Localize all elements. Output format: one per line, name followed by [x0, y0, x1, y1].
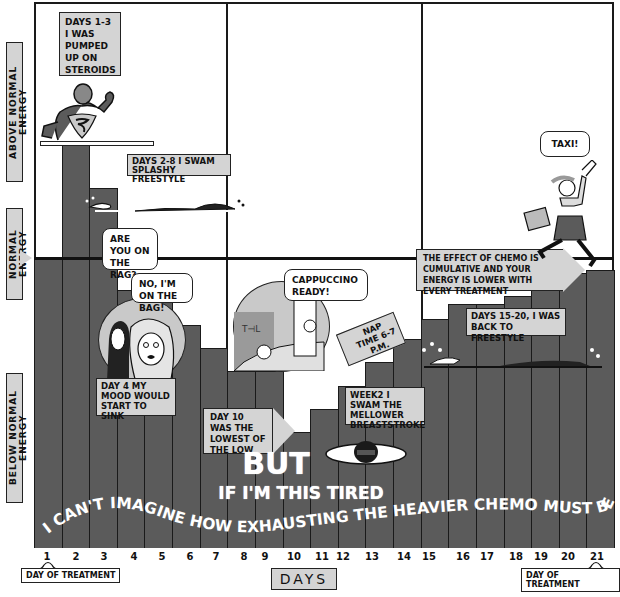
- x-tick-12: 12: [333, 551, 353, 562]
- caption-splashy-freestyle: DAYS 2-8 I SWAM SPLASHY FREESTYLE: [127, 154, 231, 176]
- x-tick-18: 18: [506, 551, 526, 562]
- x-tick-7: 7: [206, 551, 226, 562]
- x-tick-11: 11: [312, 551, 332, 562]
- x-tick-16: 16: [453, 551, 473, 562]
- superhero-icon: [38, 82, 128, 142]
- swimmer-icon: [85, 195, 245, 215]
- x-tick-14: 14: [394, 551, 414, 562]
- x-tick-17: 17: [477, 551, 497, 562]
- pedestal: [40, 141, 154, 146]
- x-tick-20: 20: [558, 551, 578, 562]
- treatment-start-label: DAY OF TREATMENT: [21, 568, 120, 583]
- x-tick-8: 8: [234, 551, 254, 562]
- speech-bubble-taxi: TAXI!: [540, 131, 590, 157]
- x-tick-10: 10: [284, 551, 304, 562]
- speech-bubble-bag: NO, I'M ON THE BAG!: [131, 273, 193, 303]
- x-tick-6: 6: [180, 551, 200, 562]
- woman-hailing-taxi-icon: [522, 160, 612, 270]
- speech-bubble-cappuccino: CAPPUCCINO READY!: [284, 269, 368, 301]
- x-tick-19: 19: [531, 551, 551, 562]
- caption-breaststroke: WEEK2 I SWAM THE MELLOWER BREASTSTROKE: [345, 387, 425, 425]
- treatment-end-label: DAY OF TREATMENT: [521, 568, 620, 592]
- punchline-wavy-text: I CAN'T IMAGINE HOW EXHAUSTING THE HEAVI…: [38, 488, 618, 548]
- x-tick-2: 2: [66, 551, 86, 562]
- caption-back-to-freestyle: DAYS 15-20, I WAS BACK TO FREESTYLE: [466, 308, 566, 336]
- swimmer-freestyle-icon: [420, 340, 605, 368]
- normal-arrow-icon: [20, 250, 32, 266]
- x-tick-9: 9: [255, 551, 275, 562]
- caption-mood: DAY 4 MY MOOD WOULD START TO SINK: [96, 378, 176, 416]
- sign-label: T⊣L: [241, 324, 260, 334]
- x-tick-5: 5: [152, 551, 172, 562]
- x-tick-4: 4: [124, 551, 144, 562]
- ylabel-above-normal: ABOVE NORMAL ENERGY: [6, 42, 23, 182]
- x-axis-label: DAYS: [271, 568, 337, 590]
- svg-text:I CAN'T IMAGINE HOW EXHAUSTING: I CAN'T IMAGINE HOW EXHAUSTING THE HEAVI…: [38, 488, 618, 537]
- x-tick-13: 13: [362, 551, 382, 562]
- x-tick-3: 3: [94, 551, 114, 562]
- ylabel-below-normal: BELOW NORMAL ENERGY: [6, 373, 23, 503]
- punchline-but: BUT: [236, 448, 316, 480]
- x-tick-15: 15: [419, 551, 439, 562]
- speech-bubble-rag: ARE YOU ON THE RAG?: [102, 228, 158, 270]
- caption-steroids: DAYS 1-3 I WAS PUMPED UP ON STEROIDS: [59, 12, 121, 76]
- breaststroke-swimmer-icon: [323, 434, 409, 466]
